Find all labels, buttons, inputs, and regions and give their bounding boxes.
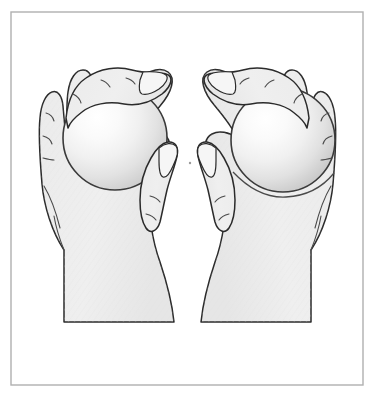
hands-holding-spheres-drawing bbox=[0, 0, 375, 397]
illustration-canvas: Two hands each cradling a sphere Line-ar… bbox=[0, 0, 375, 397]
center-dot-mark bbox=[189, 162, 191, 164]
